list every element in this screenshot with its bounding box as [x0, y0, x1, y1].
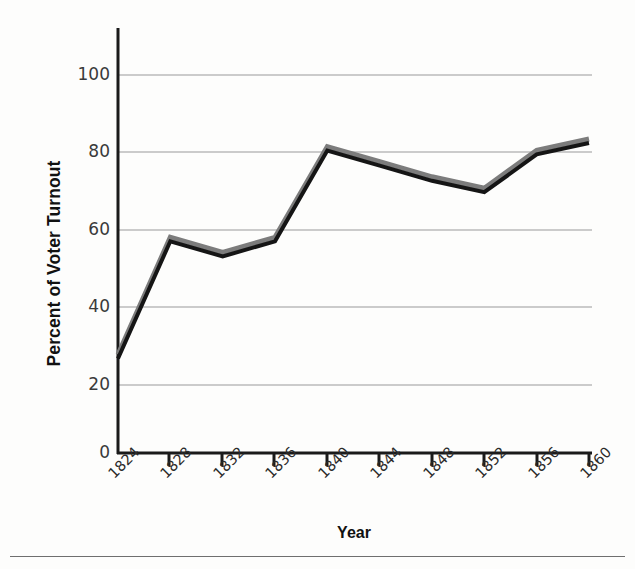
plot-area [0, 0, 635, 569]
chart-figure: Percent of Voter Turnout 100 80 60 40 20… [0, 0, 635, 569]
gridlines [118, 75, 592, 385]
x-axis-title: Year [117, 524, 591, 542]
bottom-divider [10, 556, 625, 557]
data-line-voter-turnout [118, 143, 589, 359]
